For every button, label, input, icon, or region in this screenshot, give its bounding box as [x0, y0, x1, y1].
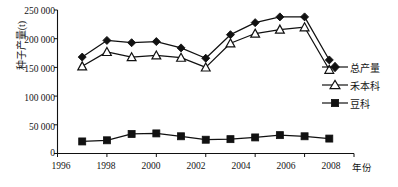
data-point: [202, 136, 209, 143]
series-2: [79, 130, 333, 145]
legend-item-legume[interactable]: 豆科: [322, 94, 398, 112]
data-point: [251, 19, 259, 27]
data-point: [128, 130, 135, 137]
legend-label: 总产量: [348, 60, 380, 75]
data-point: [78, 62, 87, 70]
series-1: [78, 23, 334, 73]
data-point: [152, 38, 160, 46]
data-point: [79, 138, 86, 145]
data-point: [301, 133, 308, 140]
data-point: [178, 133, 185, 140]
data-point: [276, 13, 284, 21]
data-point: [226, 39, 235, 47]
data-point: [326, 135, 333, 142]
axis-lines: [57, 10, 354, 154]
legend-item-gramineae[interactable]: 禾本科: [322, 76, 398, 94]
data-point: [103, 48, 112, 56]
data-point: [301, 13, 309, 21]
data-point: [300, 23, 309, 31]
data-point: [252, 134, 259, 141]
legend-item-total[interactable]: 总产量: [322, 58, 398, 76]
data-point: [276, 132, 283, 139]
data-point: [227, 136, 234, 143]
open-triangle-icon: [322, 78, 348, 92]
data-point: [103, 137, 110, 144]
data-point: [128, 39, 136, 47]
data-series-layer: [78, 13, 334, 145]
data-point: [103, 36, 111, 44]
legend-label: 禾本科: [348, 78, 380, 93]
data-point: [153, 130, 160, 137]
data-point: [78, 53, 86, 61]
filled-square-icon: [322, 96, 348, 110]
data-point: [177, 44, 185, 52]
seed-yield-line-chart: 种子产量(t) 250 000 200 000 150 000 100 000 …: [0, 0, 398, 187]
series-0: [78, 13, 333, 64]
chart-legend: 总产量 禾本科 豆科: [322, 58, 398, 112]
filled-diamond-icon: [322, 60, 348, 74]
legend-label: 豆科: [348, 96, 370, 111]
